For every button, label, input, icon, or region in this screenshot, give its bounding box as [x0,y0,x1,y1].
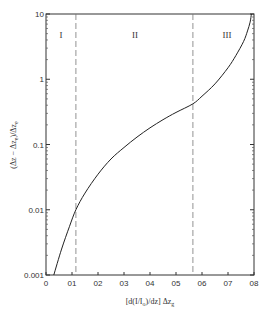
y-tick-label: 10 [35,10,44,19]
y-axis-label: (Δz − Δze)/Δze [9,121,19,169]
region-dividers [76,14,193,275]
region-label-3: III [223,30,232,40]
chart: 00102030405060708 0.0010.010.1110 I II I… [0,0,272,315]
x-tick-label: 05 [172,279,181,288]
x-tick-label: 02 [94,279,103,288]
y-axis-ticks: 0.0010.010.1110 [24,10,254,280]
x-tick-label: 06 [198,279,207,288]
y-minor-ticks [46,17,254,255]
x-tick-label: 01 [68,279,77,288]
x-tick-label: 08 [250,279,259,288]
y-tick-label: 0.001 [24,271,45,280]
y-tick-label: 1 [40,75,45,84]
region-label-1: I [60,30,63,40]
x-axis-label: [d(I/Io)/dz] Δzg [126,297,175,307]
x-tick-label: 03 [120,279,129,288]
y-tick-label: 0.01 [28,206,44,215]
x-tick-label: 04 [146,279,155,288]
x-tick-label: 0 [44,279,49,288]
data-curve [54,14,252,275]
x-axis-ticks: 00102030405060708 [44,272,259,288]
y-tick-label: 0.1 [33,141,45,150]
plot-frame [46,14,254,275]
x-tick-label: 07 [224,279,233,288]
region-label-2: II [132,30,138,40]
